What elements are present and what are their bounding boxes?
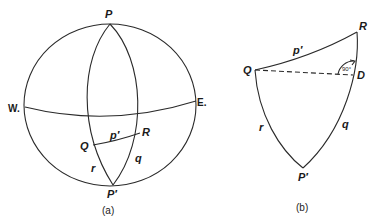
label-arc-q: q — [342, 118, 349, 130]
label-r: R — [142, 126, 150, 138]
caption-a: (a) — [102, 205, 114, 216]
label-arc-r: r — [259, 121, 264, 133]
meridian-left — [87, 24, 113, 185]
caption-b: (b) — [296, 202, 308, 213]
spherical-triangle-diagram: P P′ W. E. Q R p′ q r (a) 90° R Q D P′ p… — [0, 0, 373, 222]
sphere-outline — [24, 24, 196, 186]
label-p-top: P — [105, 8, 113, 20]
label-p-prime-bottom: P′ — [107, 188, 118, 200]
label-arc-p-prime: p′ — [109, 129, 121, 141]
arc-r-to-p-prime — [303, 32, 357, 168]
label-arc-q: q — [135, 152, 142, 164]
label-q: Q — [243, 64, 252, 76]
label-arc-p-prime: p′ — [292, 44, 304, 56]
label-west: W. — [8, 103, 20, 114]
arc-q-to-p-prime — [255, 70, 303, 168]
figure-b: 90° R Q D P′ p′ q r (b) — [243, 20, 367, 213]
label-d: D — [357, 69, 365, 81]
label-arc-r: r — [91, 162, 96, 174]
equator-line — [25, 101, 196, 116]
figure-a: P P′ W. E. Q R p′ q r (a) — [8, 8, 207, 216]
meridian-right — [110, 24, 138, 185]
label-q: Q — [80, 140, 89, 152]
label-angle-90: 90° — [342, 66, 352, 72]
label-r: R — [359, 20, 367, 32]
label-p-prime: P′ — [298, 171, 309, 183]
arc-q-to-r — [255, 32, 357, 70]
label-east: E. — [197, 97, 207, 108]
